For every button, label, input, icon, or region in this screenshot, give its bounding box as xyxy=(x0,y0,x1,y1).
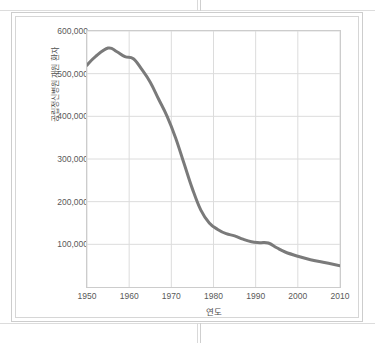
plot-area xyxy=(86,30,341,288)
x-axis-tick-label: 2000 xyxy=(288,291,307,301)
plot-svg xyxy=(87,31,340,287)
y-axis-tick-label: 100,000 xyxy=(57,239,88,249)
y-axis-tick-labels: 100,000200,000300,000400,000500,000600,0… xyxy=(40,17,88,317)
page-binding-mark-top xyxy=(197,0,201,11)
y-axis-tick-label: 400,000 xyxy=(57,111,88,121)
page-rule-top xyxy=(0,10,375,11)
line-chart: 공립정신병원 재원 환자 100,000200,000300,000400,00… xyxy=(16,17,358,317)
x-axis-tick-labels: 1950196019701980199020002010 xyxy=(86,291,341,305)
x-axis-tick-label: 2010 xyxy=(331,291,350,301)
y-axis-tick-label: 300,000 xyxy=(57,154,88,164)
x-axis-tick-label: 1970 xyxy=(162,291,181,301)
x-axis-tick-label: 1960 xyxy=(120,291,139,301)
x-axis-tick-label: 1980 xyxy=(204,291,223,301)
y-axis-tick-label: 500,000 xyxy=(57,69,88,79)
x-axis-tick-label: 1990 xyxy=(246,291,265,301)
page-container: 공립정신병원 재원 환자 100,000200,000300,000400,00… xyxy=(0,0,375,343)
page-binding-mark-bottom xyxy=(197,323,201,343)
gridlines xyxy=(87,31,340,287)
page-rule-bottom xyxy=(0,323,375,324)
x-axis-title: 연도 xyxy=(86,305,341,317)
y-axis-tick-label: 200,000 xyxy=(57,197,88,207)
x-axis-tick-label: 1950 xyxy=(78,291,97,301)
y-axis-tick-label: 600,000 xyxy=(57,26,88,36)
